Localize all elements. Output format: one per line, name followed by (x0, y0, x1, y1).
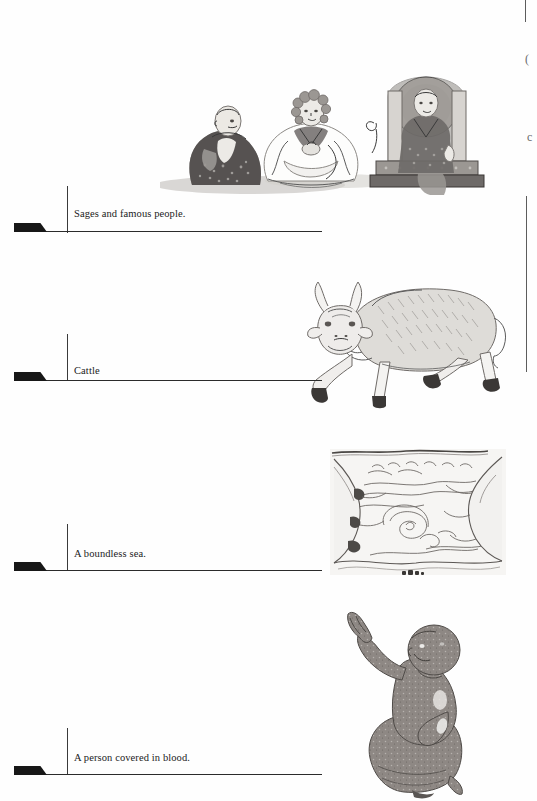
caption-wedge-marker (14, 372, 47, 381)
caption-wedge-marker (14, 766, 47, 775)
caption-baseline-rule (14, 570, 322, 571)
caption-tick-rule (67, 728, 68, 775)
caption-wedge-marker (14, 562, 47, 571)
page-canvas: ( c (0, 0, 537, 801)
caption-baseline-rule (14, 231, 322, 232)
caption-text-blood-person: A person covered in blood. (74, 752, 190, 764)
caption-text-cattle: Cattle (74, 365, 100, 377)
caption-wedge-marker (14, 223, 47, 232)
caption-text-sea: A boundless sea. (74, 548, 146, 560)
boundless-sea-illustration (328, 445, 508, 580)
caption-baseline-rule (14, 774, 322, 775)
caption-tick-rule (67, 334, 68, 381)
caption-tick-rule (67, 524, 68, 571)
caption-text-sages: Sages and famous people. (74, 208, 185, 220)
caption-baseline-rule (14, 380, 322, 381)
kneeling-blood-covered-person-illustration (330, 608, 510, 801)
bull-illustration (298, 262, 513, 410)
entry-row-blood-person: A person covered in blood. (0, 0, 537, 200)
